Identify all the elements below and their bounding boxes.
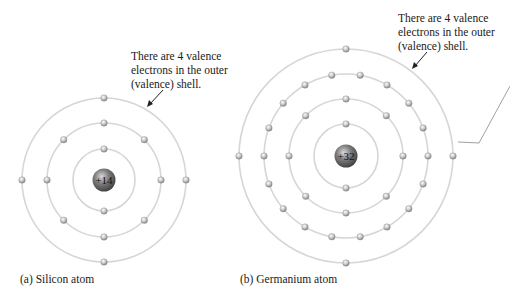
- silicon-caption: (a) Silicon atom: [20, 273, 94, 285]
- electron-icon: [101, 120, 108, 127]
- electron-icon: [266, 125, 273, 132]
- germanium-caption: (b) Germanium atom: [240, 273, 337, 285]
- nucleus-label: +32: [337, 150, 354, 162]
- electron-icon: [383, 112, 390, 119]
- electron-icon: [101, 146, 108, 153]
- electron-icon: [101, 234, 108, 241]
- annotation-line: (valence) shell.: [131, 77, 228, 91]
- electron-icon: [302, 193, 309, 200]
- electron-icon: [406, 205, 413, 212]
- electron-icon: [60, 217, 67, 224]
- electron-icon: [141, 217, 148, 224]
- electron-icon: [425, 153, 432, 160]
- electron-icon: [406, 100, 413, 107]
- annotation-line: (valence) shell.: [398, 39, 495, 53]
- electron-icon: [302, 112, 309, 119]
- electron-icon: [343, 210, 350, 217]
- electron-icon: [329, 234, 336, 241]
- electron-icon: [384, 82, 391, 89]
- annotation-line: There are 4 valence: [398, 11, 495, 25]
- electron-icon: [183, 177, 190, 184]
- electron-icon: [19, 177, 26, 184]
- electron-icon: [158, 177, 165, 184]
- electron-icon: [302, 82, 309, 89]
- annotation-line: electrons in the outer: [131, 63, 228, 77]
- electron-icon: [357, 234, 364, 241]
- electron-icon: [236, 153, 243, 160]
- electron-icon: [343, 260, 350, 267]
- electron-icon: [343, 121, 350, 128]
- electron-icon: [44, 177, 51, 184]
- electron-icon: [60, 136, 67, 143]
- electron-icon: [101, 95, 108, 102]
- electron-icon: [357, 72, 364, 79]
- electron-icon: [101, 259, 108, 266]
- electron-icon: [343, 96, 350, 103]
- electron-icon: [280, 205, 287, 212]
- electron-icon: [400, 153, 407, 160]
- annotation-line: There are 4 valence: [131, 49, 228, 63]
- electron-icon: [141, 136, 148, 143]
- germanium-arrow-icon: [412, 52, 427, 69]
- electron-icon: [420, 125, 427, 132]
- germanium-atom: +32: [236, 46, 457, 267]
- electron-icon: [383, 193, 390, 200]
- germanium-annotation: There are 4 valence electrons in the out…: [398, 11, 495, 53]
- annotation-line: electrons in the outer: [398, 25, 495, 39]
- electron-icon: [384, 224, 391, 231]
- electron-icon: [101, 208, 108, 215]
- silicon-annotation: There are 4 valence electrons in the out…: [131, 49, 228, 91]
- electron-icon: [261, 153, 268, 160]
- nucleus-label: +14: [95, 174, 113, 186]
- electron-icon: [329, 72, 336, 79]
- silicon-atom: +14: [19, 95, 190, 266]
- electron-icon: [420, 181, 427, 188]
- electron-icon: [450, 153, 457, 160]
- silicon-arrow-icon: [147, 90, 163, 107]
- electron-icon: [302, 224, 309, 231]
- electron-icon: [343, 46, 350, 53]
- electron-icon: [280, 100, 287, 107]
- stray-line: [458, 86, 510, 143]
- electron-icon: [286, 153, 293, 160]
- electron-icon: [266, 181, 273, 188]
- electron-icon: [343, 185, 350, 192]
